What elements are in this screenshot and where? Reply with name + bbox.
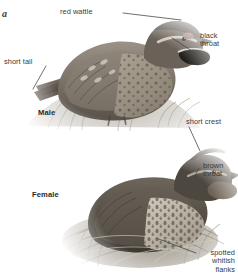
callout-spotted-whitish-flanks: spotted whitish flanks <box>210 249 235 274</box>
callout-black-throat: black throat <box>200 32 219 49</box>
illustration-plate: a <box>0 0 238 280</box>
callout-brown-throat: brown throat <box>203 162 223 179</box>
label-male: Male <box>38 108 55 117</box>
plate-letter: a <box>2 8 7 19</box>
callout-short-tail: short tail <box>4 58 32 66</box>
callout-red-wattle: red wattle <box>60 8 93 16</box>
callout-short-crest: short crest <box>186 118 221 126</box>
label-female: Female <box>32 190 59 199</box>
